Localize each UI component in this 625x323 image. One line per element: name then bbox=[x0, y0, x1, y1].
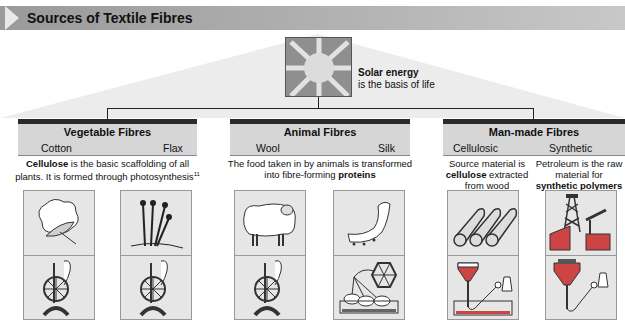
solar-heading: Solar energy bbox=[358, 67, 435, 79]
panel-cotton bbox=[23, 190, 95, 320]
silkworm-icon bbox=[334, 192, 404, 254]
solar-caption: Solar energy is the basis of life bbox=[358, 67, 435, 91]
wood-logs-icon bbox=[448, 192, 518, 254]
connector bbox=[107, 108, 534, 109]
description-synthetic: Petroleum is the raw material for synthe… bbox=[535, 158, 623, 191]
panel-flax bbox=[120, 190, 192, 320]
group-header-manmade: Man-made Fibres Cellulosic Synthetic bbox=[443, 124, 625, 156]
connector bbox=[318, 97, 319, 108]
spinning-wheel-icon bbox=[121, 257, 191, 319]
description-animal: The food taken in by animals is transfor… bbox=[225, 158, 415, 180]
sub-wool: Wool bbox=[256, 142, 280, 154]
sheep-icon bbox=[235, 192, 305, 254]
solar-text: is the basis of life bbox=[358, 79, 435, 90]
description-cellulosic: Source material is cellulose extracted f… bbox=[443, 158, 531, 191]
group-header-animal: Animal Fibres Wool Silk bbox=[230, 124, 410, 156]
spinning-wheel-icon bbox=[235, 257, 305, 319]
group-header-vegetable: Vegetable Fibres Cotton Flax bbox=[18, 124, 197, 156]
panel-cellulosic bbox=[447, 190, 519, 320]
panel-synthetic bbox=[545, 190, 617, 320]
sub-flax: Flax bbox=[163, 142, 183, 154]
oil-rig-icon bbox=[546, 192, 616, 254]
spinning-wheel-icon bbox=[24, 257, 94, 319]
sub-cellulosic: Cellulosic bbox=[453, 142, 498, 154]
flax-plant-icon bbox=[121, 192, 191, 254]
panel-silk bbox=[333, 190, 405, 320]
sub-synthetic: Synthetic bbox=[549, 142, 592, 154]
sub-silk: Silk bbox=[378, 142, 395, 154]
sub-cotton: Cotton bbox=[41, 142, 72, 154]
silk-reel-icon bbox=[334, 257, 404, 319]
page-title: Sources of Textile Fibres bbox=[27, 10, 192, 26]
connector bbox=[533, 108, 534, 119]
sun-icon bbox=[285, 37, 352, 97]
spinneret-bath-icon bbox=[448, 257, 518, 319]
connector bbox=[107, 108, 108, 119]
cotton-boll-icon bbox=[24, 192, 94, 254]
panel-wool bbox=[234, 190, 306, 320]
melt-spinning-icon bbox=[546, 257, 616, 319]
description-vegetable: Cellulose is the basic scaffolding of al… bbox=[14, 158, 201, 182]
title-bar: Sources of Textile Fibres bbox=[0, 6, 625, 30]
arrow-icon bbox=[5, 6, 19, 30]
